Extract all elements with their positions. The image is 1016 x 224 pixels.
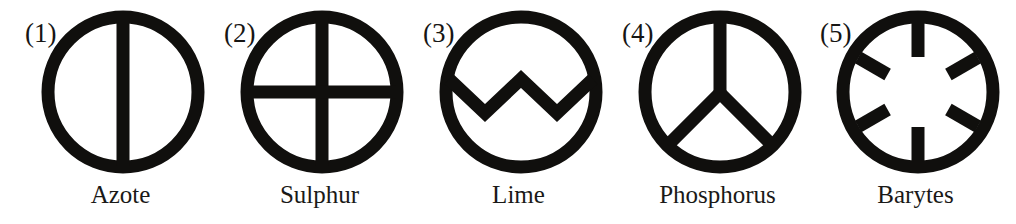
- circle-tri-radiant-icon: [637, 9, 803, 175]
- symbol-label-lime: Lime: [419, 181, 618, 209]
- chemical-symbol-plate: (1) Azote (2) Sulphur (3): [0, 0, 1016, 224]
- symbol-label-phosphorus: Phosphorus: [618, 181, 817, 209]
- symbol-cell-lime: (3) Lime: [419, 0, 618, 224]
- symbol-cell-sulphur: (2) Sulphur: [220, 0, 419, 224]
- symbol-label-sulphur: Sulphur: [220, 181, 419, 209]
- symbol-label-azote: Azote: [21, 181, 220, 209]
- symbol-cell-phosphorus: (4) Phosphorus: [618, 0, 817, 224]
- symbol-cell-barytes: (5) Barytes: [816, 0, 1015, 224]
- circle-vertical-bar-icon: [40, 9, 206, 175]
- circle-cross-icon: [239, 9, 405, 175]
- symbol-cell-azote: (1) Azote: [21, 0, 220, 224]
- circle-six-spokes-icon: [835, 9, 1001, 175]
- circle-zigzag-icon: [438, 9, 604, 175]
- symbol-label-barytes: Barytes: [816, 181, 1015, 209]
